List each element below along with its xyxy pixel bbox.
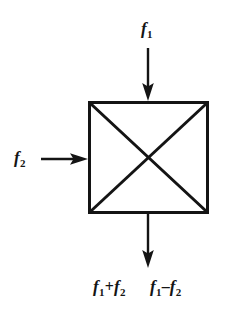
label-output-difference-rhs-subscript: 2: [176, 286, 182, 298]
label-output-sum: f1+f2: [93, 278, 125, 298]
input-arrow-top: [142, 48, 154, 101]
label-output-difference-lhs-subscript: 1: [156, 286, 162, 298]
label-input-top-subscript: 1: [147, 28, 153, 40]
label-output-sum-operator: +: [105, 278, 114, 295]
label-input-left-f2: f2: [14, 149, 25, 169]
label-output-difference-rhs-variable: f: [170, 277, 176, 296]
label-output-difference-operator: –: [162, 278, 170, 295]
mixer-diagram: [0, 0, 227, 316]
label-output-sum-rhs-variable: f: [114, 277, 120, 296]
label-input-left-subscript: 2: [20, 157, 26, 169]
label-output-sum-rhs-subscript: 2: [120, 286, 126, 298]
label-output-difference-lhs-variable: f: [150, 277, 156, 296]
label-input-left-variable: f: [14, 148, 20, 167]
output-arrow-bottom: [142, 214, 154, 268]
label-input-top-variable: f: [141, 19, 147, 38]
label-output-difference: f1–f2: [150, 278, 181, 298]
input-arrow-left: [41, 153, 88, 165]
label-input-top-f1: f1: [141, 20, 152, 40]
label-output-sum-lhs-variable: f: [93, 277, 99, 296]
figure-canvas: f1 f2 f1+f2 f1–f2: [0, 0, 227, 316]
label-output-sum-lhs-subscript: 1: [99, 286, 105, 298]
